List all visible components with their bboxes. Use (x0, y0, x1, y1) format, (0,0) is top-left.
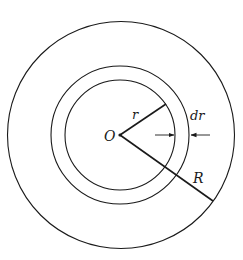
center-point (118, 133, 121, 136)
outer-radius-label: R (192, 170, 204, 186)
radius-r-line (120, 104, 166, 135)
annulus-diagram: O r dr R (0, 0, 243, 260)
center-label: O (104, 128, 116, 144)
inner-radius-label: r (132, 107, 139, 122)
ring-width-label: dr (190, 108, 205, 123)
radius-R-line (120, 135, 213, 201)
